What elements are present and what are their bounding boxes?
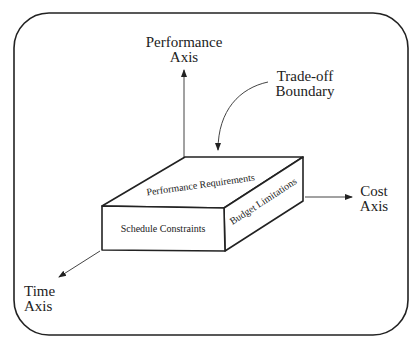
front-face-label: Schedule Constraints	[121, 223, 206, 234]
cost-axis-label-line2: Axis	[354, 199, 394, 214]
performance-axis-label: Performance Axis	[138, 35, 230, 65]
performance-axis-label-line2: Axis	[138, 50, 230, 65]
trade-off-curve-arrow	[218, 82, 268, 150]
trade-off-label-line2: Boundary	[268, 84, 342, 99]
time-axis-label-line2: Axis	[24, 299, 64, 314]
performance-axis-label-line1: Performance	[138, 35, 230, 50]
trade-off-label-line1: Trade-off	[268, 69, 342, 84]
time-axis-label-line1: Time	[24, 284, 64, 299]
cost-axis-label: Cost Axis	[354, 184, 394, 214]
trade-off-boundary-label: Trade-off Boundary	[268, 69, 342, 99]
time-axis-arrow	[59, 251, 100, 277]
cost-axis-label-line1: Cost	[354, 184, 394, 199]
time-axis-label: Time Axis	[24, 284, 64, 314]
